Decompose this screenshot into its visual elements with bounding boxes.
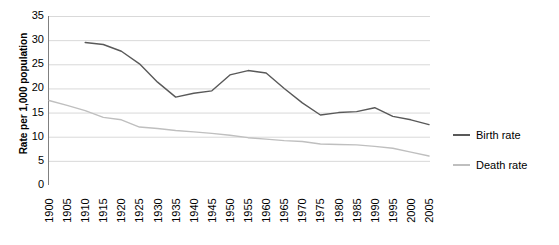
x-tick-label-text: 1995	[387, 193, 398, 229]
x-tick-label-text: 1975	[315, 193, 326, 229]
y-tick-label: 5	[20, 155, 44, 166]
x-axis-tick-labels: 1900190519101915192019251930193519401945…	[48, 188, 430, 244]
x-tick-label-text: 1920	[116, 193, 127, 229]
x-tick-label-text: 1915	[98, 193, 109, 229]
x-tick-label: 1935	[170, 188, 182, 234]
y-tick-label: 20	[20, 82, 44, 93]
y-tick-label: 10	[20, 131, 44, 142]
plot-svg	[48, 16, 430, 185]
x-tick-label: 1940	[188, 188, 200, 234]
y-tick-label: 0	[20, 179, 44, 190]
x-tick-label: 1980	[333, 188, 345, 234]
line-chart: Rate per 1,000 population 05101520253035…	[0, 0, 559, 245]
x-tick-label: 1910	[79, 188, 91, 234]
x-tick-label-text: 1935	[170, 193, 181, 229]
x-tick-label-text: 2000	[405, 193, 416, 229]
legend: Birth rateDeath rate	[453, 120, 559, 180]
x-tick-label: 1985	[351, 188, 363, 234]
legend-label: Birth rate	[476, 130, 521, 141]
x-tick-label: 1960	[260, 188, 272, 234]
x-tick-label: 1945	[206, 188, 218, 234]
x-tick-label: 2005	[423, 188, 435, 234]
x-tick-label: 1915	[97, 188, 109, 234]
y-tick-label: 35	[20, 10, 44, 21]
y-tick-label: 30	[20, 34, 44, 45]
x-tick-label-text: 1945	[206, 193, 217, 229]
series-line	[85, 43, 429, 125]
x-tick-label-text: 1910	[80, 193, 91, 229]
x-tick-label-text: 1930	[152, 193, 163, 229]
x-tick-label: 1995	[387, 188, 399, 234]
x-tick-label-text: 1970	[297, 193, 308, 229]
x-tick-label: 1970	[296, 188, 308, 234]
x-tick-label-text: 2005	[424, 193, 435, 229]
x-tick-label: 1905	[61, 188, 73, 234]
y-tick-label: 15	[20, 107, 44, 118]
x-tick-label-text: 1980	[333, 193, 344, 229]
x-tick-label: 1950	[224, 188, 236, 234]
y-tick-label: 25	[20, 58, 44, 69]
x-tick-label-text: 1960	[261, 193, 272, 229]
x-tick-label: 1900	[43, 188, 55, 234]
x-tick-label-text: 1940	[188, 193, 199, 229]
legend-line-swatch	[453, 134, 470, 136]
legend-item[interactable]: Death rate	[453, 150, 559, 180]
legend-label: Death rate	[476, 160, 527, 171]
x-tick-label-text: 1955	[243, 193, 254, 229]
x-tick-label-text: 1925	[134, 193, 145, 229]
y-axis-tick-labels: 05101520253035	[18, 16, 44, 185]
plot-area	[48, 16, 430, 185]
x-tick-label: 1930	[152, 188, 164, 234]
x-tick-label: 1925	[133, 188, 145, 234]
x-tick-label-text: 1965	[279, 193, 290, 229]
x-tick-label: 1920	[115, 188, 127, 234]
x-tick-label: 2000	[405, 188, 417, 234]
x-tick-label-text: 1990	[369, 193, 380, 229]
x-tick-label: 1975	[314, 188, 326, 234]
x-tick-label: 1955	[242, 188, 254, 234]
legend-line-swatch	[453, 164, 470, 166]
x-tick-label-text: 1985	[351, 193, 362, 229]
legend-item[interactable]: Birth rate	[453, 120, 559, 150]
x-tick-label-text: 1900	[44, 193, 55, 229]
x-tick-label: 1965	[278, 188, 290, 234]
x-tick-label-text: 1905	[62, 193, 73, 229]
x-tick-label: 1990	[369, 188, 381, 234]
x-tick-label-text: 1950	[224, 193, 235, 229]
